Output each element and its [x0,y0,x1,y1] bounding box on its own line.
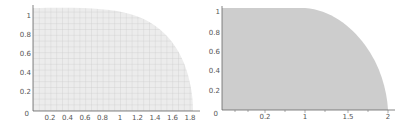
svg-text:0.2: 0.2 [209,87,220,95]
svg-text:0.4: 0.4 [209,67,221,75]
svg-text:1.6: 1.6 [167,114,179,122]
svg-text:0.4: 0.4 [20,69,32,77]
svg-text:0.2: 0.2 [259,113,270,121]
svg-text:0.8: 0.8 [97,114,108,122]
svg-text:1.2: 1.2 [132,114,143,122]
x-tick-labels: 0.2 1 1.5 2 [259,113,390,121]
svg-text:0.6: 0.6 [209,48,221,56]
svg-text:1.8: 1.8 [184,114,195,122]
svg-text:1: 1 [216,8,220,16]
svg-text:0.6: 0.6 [79,114,91,122]
left-plot: 0.2 0.4 0.6 0.8 1 1.2 1.4 1.6 1.8 0 0.2 … [0,0,205,126]
svg-text:0: 0 [214,110,218,118]
svg-text:0: 0 [25,110,29,118]
svg-text:1.4: 1.4 [149,114,161,122]
x-tick-labels: 0.2 0.4 0.6 0.8 1 1.2 1.4 1.6 1.8 [44,114,195,122]
svg-text:1: 1 [303,113,307,121]
right-plot-canvas: 0.2 1 1.5 2 0 0.2 0.4 0.6 0.8 1 [205,0,411,126]
svg-text:0.4: 0.4 [62,114,74,122]
y-tick-labels: 0 0.2 0.4 0.6 0.8 1 [209,8,221,118]
filled-region [33,0,198,111]
svg-text:1.5: 1.5 [342,113,353,121]
svg-text:2: 2 [386,113,390,121]
right-plot: 0.2 1 1.5 2 0 0.2 0.4 0.6 0.8 1 [205,0,411,126]
svg-text:1: 1 [118,114,122,122]
y-tick-labels: 0 0.2 0.4 0.6 0.8 1 [20,12,32,118]
svg-text:0.8: 0.8 [209,29,220,37]
svg-text:0.8: 0.8 [20,31,31,39]
svg-text:0.2: 0.2 [44,114,55,122]
filled-region [222,8,388,110]
left-plot-canvas: 0.2 0.4 0.6 0.8 1 1.2 1.4 1.6 1.8 0 0.2 … [0,0,205,126]
svg-text:0.2: 0.2 [20,88,31,96]
svg-text:0.6: 0.6 [20,50,32,58]
svg-text:1: 1 [27,12,31,20]
